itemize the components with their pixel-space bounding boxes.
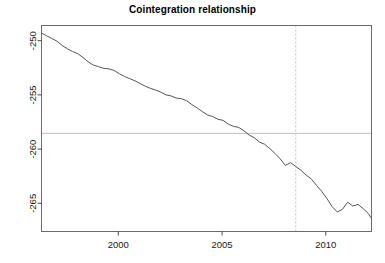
x-tick-label-2: 2010 xyxy=(315,239,336,250)
chart-figure: Cointegration relationship 200020052010-… xyxy=(0,0,385,263)
y-tick-label-2: -260 xyxy=(27,140,38,159)
plot-box-frame xyxy=(42,26,372,232)
y-tick-label-0: -250 xyxy=(27,31,38,50)
x-tick-label-1: 2005 xyxy=(211,239,232,250)
y-tick-label-3: -265 xyxy=(27,194,38,213)
x-tick-label-0: 2000 xyxy=(108,239,129,250)
series-line-0 xyxy=(42,33,372,218)
plot-area: 200020052010-250-255-260-265 xyxy=(0,0,385,263)
y-tick-label-1: -255 xyxy=(27,85,38,104)
